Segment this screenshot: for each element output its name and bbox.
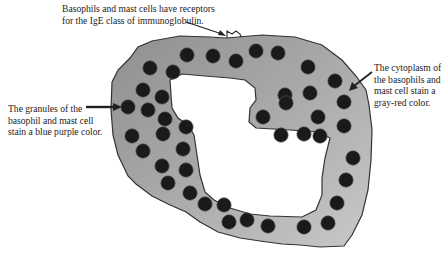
granule — [297, 127, 311, 141]
granule — [179, 120, 193, 134]
granule — [337, 95, 351, 109]
granule — [274, 128, 288, 142]
granule — [328, 74, 342, 88]
granule — [155, 90, 169, 104]
cytoplasm-label-line-1: The cytoplasm of — [374, 62, 441, 74]
granule — [240, 213, 254, 227]
granule — [217, 198, 231, 212]
granule — [297, 220, 311, 234]
granule — [158, 112, 172, 126]
granule — [339, 173, 353, 187]
granules-label-line-3: stain a blue purple color. — [8, 126, 103, 138]
granules-label: The granules of the basophil and mast ce… — [8, 103, 103, 138]
granule — [161, 176, 175, 190]
cytoplasm-label-line-4: gray-red color. — [374, 97, 441, 109]
granule — [301, 60, 315, 74]
granule — [125, 129, 139, 143]
granule — [180, 48, 194, 62]
granule — [136, 83, 150, 97]
granule — [321, 216, 335, 230]
granule — [303, 86, 317, 100]
granule — [311, 110, 325, 124]
receptor-label-line-1: Basophils and mast cells have receptors — [62, 3, 215, 15]
granule — [330, 196, 344, 210]
granule — [156, 127, 170, 141]
granule — [176, 142, 190, 156]
granule — [166, 65, 180, 79]
granule — [183, 186, 197, 200]
granule — [155, 159, 169, 173]
granule — [261, 219, 275, 233]
granule — [346, 151, 360, 165]
granules-label-line-1: The granules of the — [8, 103, 103, 115]
granule — [198, 197, 212, 211]
cytoplasm-label: The cytoplasm of the basophils and mast … — [374, 62, 441, 108]
granule — [222, 215, 236, 229]
granule — [143, 61, 157, 75]
granules-label-line-2: basophil and mast cell — [8, 115, 103, 127]
receptor-label-line-2: for the IgE class of immunoglobulin. — [62, 15, 215, 27]
granule — [249, 44, 263, 58]
receptor-label: Basophils and mast cells have receptors … — [62, 3, 215, 26]
granule — [337, 119, 351, 133]
granule — [121, 100, 135, 114]
granule — [206, 49, 220, 63]
granule — [271, 46, 285, 60]
granule — [179, 163, 193, 177]
granule — [279, 96, 293, 110]
cytoplasm-label-line-2: the basophils and — [374, 74, 441, 86]
granule — [136, 144, 150, 158]
cytoplasm-label-line-3: mast cell stain a — [374, 85, 441, 97]
granule — [256, 110, 270, 124]
granule — [141, 103, 155, 117]
granule — [229, 54, 243, 68]
granule — [313, 129, 327, 143]
